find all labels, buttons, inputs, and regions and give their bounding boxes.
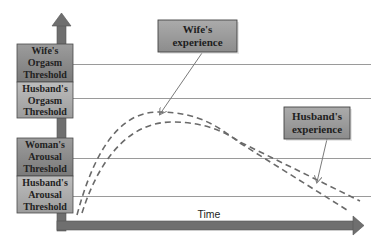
label-line: Threshold — [23, 201, 67, 212]
wife-experience-pointer — [160, 53, 202, 114]
label-line: Orgasm — [28, 57, 63, 68]
label-line: Arousal — [28, 189, 62, 200]
label-line: Husband's — [22, 177, 68, 188]
husband-experience-callout: Husband's experience — [284, 107, 352, 141]
label-line: Husband's — [22, 83, 68, 94]
label-line: Threshold — [23, 106, 67, 117]
husband-experience-pointer — [317, 139, 327, 182]
wife-experience-callout: Wife's experience — [158, 20, 239, 54]
label-line: Woman's — [25, 139, 65, 150]
label-line: Wife's — [31, 45, 58, 56]
callout-line: experience — [292, 123, 342, 135]
wife-orgasm-threshold-box: Wife's Orgasm Threshold — [17, 44, 73, 82]
label-line: Threshold — [23, 163, 67, 174]
label-line: Orgasm — [28, 95, 63, 106]
callout-line: Husband's — [292, 110, 343, 122]
x-axis-label: Time — [198, 208, 221, 220]
arousal-diagram: Time Wife's Orgasm Threshold Husband's O… — [0, 0, 385, 249]
woman-arousal-threshold-box: Woman's Arousal Threshold — [17, 138, 73, 176]
callout-line: Wife's — [183, 23, 213, 35]
label-line: Arousal — [28, 151, 62, 162]
husband-orgasm-threshold-box: Husband's Orgasm Threshold — [17, 82, 73, 118]
label-line: Threshold — [23, 69, 67, 80]
callout-line: experience — [172, 36, 222, 48]
husband-arousal-threshold-box: Husband's Arousal Threshold — [17, 176, 73, 213]
